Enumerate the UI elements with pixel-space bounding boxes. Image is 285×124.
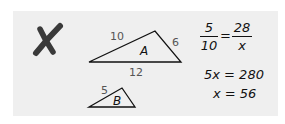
figure-canvas <box>0 0 285 124</box>
fraction-right-numerator: 28 <box>234 20 251 35</box>
equation-step-2: x = 56 <box>213 87 256 100</box>
fraction-bar <box>232 36 252 37</box>
equation-step-1: 5x = 280 <box>204 68 264 81</box>
fraction-left: 5 10 <box>200 21 218 52</box>
triangle-a-label: A <box>140 45 148 57</box>
fraction-right: 28 x <box>232 21 252 52</box>
cross-mark-icon <box>36 26 60 53</box>
equals-sign: = <box>220 29 231 42</box>
triangle-a-side-bottom: 12 <box>129 67 143 78</box>
fraction-right-denominator: x <box>238 38 246 53</box>
triangle-a-shape <box>89 31 181 62</box>
triangle-b-side-left: 5 <box>101 85 108 96</box>
fraction-bar <box>200 36 218 37</box>
triangle-b-shape <box>89 88 135 107</box>
triangle-a-side-left: 10 <box>110 31 124 42</box>
triangle-b-label: B <box>113 95 121 107</box>
fraction-left-numerator: 5 <box>205 20 213 35</box>
fraction-left-denominator: 10 <box>201 38 218 53</box>
triangle-a-side-right: 6 <box>172 37 179 48</box>
